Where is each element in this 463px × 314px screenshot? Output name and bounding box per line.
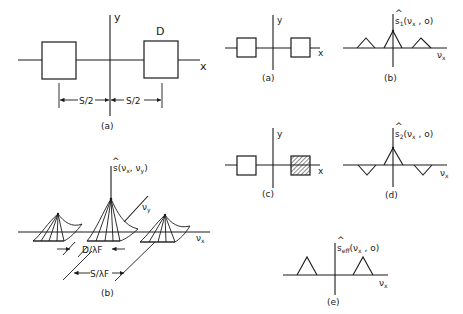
panel-left-a-apertures: y x D S/2 S/2 (a) — [18, 11, 207, 131]
panel-right-c: y x (c) — [225, 128, 324, 199]
hat-accent: ^ — [112, 156, 120, 166]
center-peak — [87, 198, 138, 241]
caption-d-right: (d) — [385, 190, 398, 200]
vx-label: νx — [440, 168, 449, 179]
x-axis-label: x — [200, 60, 207, 73]
side-trough-left — [358, 165, 376, 175]
right-aperture — [291, 38, 310, 57]
caption-b-right: (b) — [384, 73, 397, 83]
panel-right-a: y x (a) — [225, 15, 324, 83]
hat-accent: ^ — [395, 8, 403, 18]
caption-a: (a) — [101, 121, 114, 131]
y-axis-label: y — [277, 129, 283, 139]
left-peak — [33, 213, 82, 241]
panel-right-b: s1(νx , o) ^ νx (b) — [343, 8, 447, 83]
side-peak-right — [412, 38, 431, 48]
dim-oblique — [63, 242, 75, 255]
aperture-size-label: D — [156, 25, 164, 38]
peak-width-label: D/λF — [82, 245, 102, 255]
panel-right-d: s2(νx , o) ^ νx (d) — [343, 121, 449, 200]
vx-label: νx — [379, 278, 388, 289]
caption-c-right: (c) — [262, 189, 274, 199]
y-axis-label: y — [277, 15, 283, 25]
vy-label: νy — [142, 202, 151, 214]
right-aperture — [144, 41, 178, 78]
caption-a-right: (a) — [262, 73, 275, 83]
dim-oblique — [115, 242, 155, 281]
panel-left-b-spectrum: s(νx, νy) ^ νy νx D/λF S/λF (b) — [18, 156, 210, 298]
left-aperture — [237, 38, 256, 57]
y-axis-label: y — [114, 11, 121, 24]
hat-accent: ^ — [395, 121, 403, 131]
caption-e-right: (e) — [327, 297, 340, 307]
half-separation-label-right: S/2 — [126, 96, 140, 106]
hat-accent: ^ — [337, 235, 345, 245]
vx-label: νx — [437, 50, 446, 61]
right-peak — [140, 214, 190, 242]
side-trough-right — [414, 165, 432, 175]
right-aperture-phase-shifted — [291, 156, 310, 175]
half-separation-label-left: S/2 — [79, 96, 93, 106]
vx-label: νx — [196, 233, 205, 244]
side-peak-left — [297, 257, 317, 275]
x-axis-label: x — [318, 166, 324, 176]
peak-separation-label: S/λF — [90, 269, 109, 279]
side-peak-left — [357, 38, 375, 48]
figure-canvas: y x D S/2 S/2 (a) — [0, 0, 463, 314]
panel-right-e: seff(νx , o) ^ νx (e) — [283, 235, 388, 307]
left-aperture — [237, 156, 256, 175]
dim-oblique — [63, 251, 92, 280]
left-aperture — [42, 42, 76, 79]
caption-b: (b) — [101, 288, 114, 298]
x-axis-label: x — [318, 48, 324, 58]
side-peak-right — [353, 257, 373, 275]
